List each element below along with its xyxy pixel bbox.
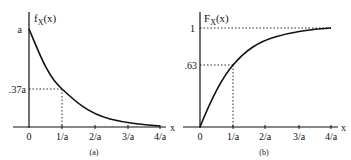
- svg-text:1/a: 1/a: [56, 131, 69, 142]
- svg-text:0: 0: [198, 131, 203, 142]
- pdf-curve: [29, 29, 160, 126]
- guide-lines-b: [200, 28, 331, 127]
- svg-text:3/a: 3/a: [122, 131, 135, 142]
- svg-text:1/a: 1/a: [227, 131, 240, 142]
- svg-text:3/a: 3/a: [293, 131, 306, 142]
- svg-text:4/a: 4/a: [154, 131, 167, 142]
- caption-b: (b): [259, 148, 269, 157]
- guide-lines-a: [29, 89, 62, 127]
- svg-text:2/a: 2/a: [259, 131, 272, 142]
- caption-a: (a): [90, 148, 99, 157]
- ytick-label-a-mid: .37a: [9, 84, 27, 95]
- ylabel-b: FX(x): [204, 12, 229, 27]
- svg-text:2/a: 2/a: [89, 131, 102, 142]
- ytick-label-b-top: 1: [190, 23, 195, 34]
- ytick-label-b-mid: .63: [185, 60, 198, 71]
- cdf-curve: [200, 28, 331, 127]
- xtick-labels-a: 0 1/a 2/a 3/a 4/a: [27, 131, 167, 142]
- ylabel-a: fX(x): [34, 12, 57, 27]
- panel-b: FX(x) 1 .63 0 1/a 2/a 3/a 4/a x (b): [183, 12, 346, 157]
- svg-text:4/a: 4/a: [325, 131, 338, 142]
- figure: fX(x) a .37a 0 1/a 2/a 3/a 4/a x (a) FX(…: [0, 0, 351, 160]
- ytick-label-a-top: a: [18, 24, 23, 35]
- xtick-labels-b: 0 1/a 2/a 3/a 4/a: [198, 131, 338, 142]
- panel-a: fX(x) a .37a 0 1/a 2/a 3/a 4/a x (a): [9, 12, 175, 157]
- xaxis-label-a: x: [170, 122, 175, 133]
- xaxis-label-b: x: [341, 122, 346, 133]
- svg-text:0: 0: [27, 131, 32, 142]
